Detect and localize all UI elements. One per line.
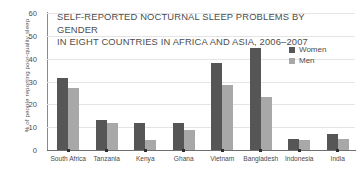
legend-swatch-icon [289,47,295,53]
bar-women [250,48,261,150]
legend-label: Men [299,55,315,66]
legend-swatch-icon [289,58,295,64]
x-tick-mark [221,149,224,152]
legend-item: Women [289,44,326,55]
bar-men [299,140,310,150]
bar-women [134,123,145,150]
bar-women [96,120,107,150]
x-tick-mark [298,149,301,152]
y-tick-label: 0 [15,146,37,155]
bar-women [57,78,68,150]
bar-men [184,130,195,150]
y-tick-label: 40 [15,54,37,63]
bar-women [173,123,184,150]
x-tick-mark [182,149,185,152]
bar-men [145,140,156,150]
x-tick-mark [259,149,262,152]
x-axis-line [47,150,356,151]
bar-chart: % of people reporting poor-quality sleep… [0,0,361,175]
x-tick-mark [144,149,147,152]
x-tick-mark [105,149,108,152]
bar-men [107,123,118,150]
y-tick-label: 60 [15,9,37,18]
chart-title-line-1: SELF-REPORTED NOCTURNAL SLEEP PROBLEMS B… [57,11,347,36]
bar-men [338,139,349,150]
bar-men [222,85,233,150]
x-tick-mark [67,149,70,152]
bar-men [261,97,272,150]
bar-women [211,63,222,150]
legend-item: Men [289,55,326,66]
x-axis-label: India [303,155,361,162]
bar-men [68,88,79,150]
y-tick-label: 50 [15,31,37,40]
y-tick-label: 30 [15,77,37,86]
chart-legend: WomenMen [289,44,326,66]
y-tick-label: 20 [15,100,37,109]
x-tick-mark [336,149,339,152]
legend-label: Women [299,44,326,55]
y-tick-label: 10 [15,123,37,132]
bar-women [327,134,338,150]
